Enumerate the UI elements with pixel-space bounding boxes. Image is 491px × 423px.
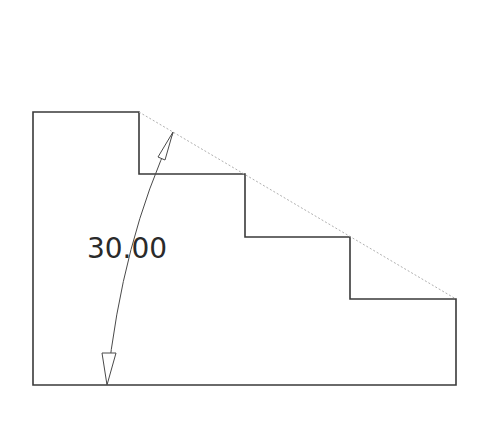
arrowhead-bottom-icon [102, 353, 116, 385]
angle-dimension-value: 30.00 [87, 232, 167, 265]
arrowhead-top-icon [158, 132, 173, 160]
drawing-canvas: 30.00 [0, 0, 491, 423]
slope-construction-line [139, 112, 456, 299]
